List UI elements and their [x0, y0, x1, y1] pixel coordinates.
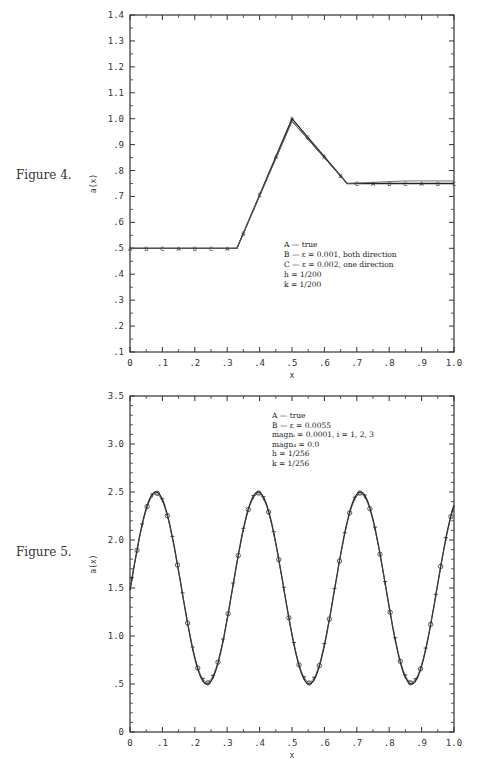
y-tick-label: 1.3	[108, 36, 124, 46]
legend-entry: magnᵢ = 0.0001, i = 1, 2, 3	[272, 430, 374, 439]
series-line	[130, 494, 454, 682]
x-axis-title: x	[290, 751, 295, 760]
x-tick-label: .6	[319, 358, 330, 368]
data-marker	[373, 527, 377, 531]
data-marker: C	[160, 245, 164, 252]
y-tick-label: .5	[113, 679, 124, 689]
y-tick-label: .3	[113, 295, 124, 305]
data-marker	[434, 594, 438, 598]
x-tick-label: .7	[351, 358, 362, 368]
data-marker	[393, 638, 397, 642]
data-marker: C	[403, 180, 407, 187]
data-marker: C	[306, 134, 310, 141]
data-marker	[241, 528, 245, 532]
y-tick-label: .1	[113, 347, 124, 357]
data-marker	[272, 532, 276, 536]
legend-entry: k = 1/256	[272, 459, 309, 468]
y-tick-label: 2.5	[108, 487, 124, 497]
data-marker	[191, 647, 195, 651]
data-marker: C	[257, 191, 261, 198]
x-tick-label: 0	[127, 358, 132, 368]
legend-entry: A — true	[283, 240, 318, 249]
x-tick-label: .3	[222, 738, 233, 748]
data-marker	[383, 582, 387, 586]
y-tick-label: 1.4	[108, 10, 124, 20]
y-tick-label: 2.0	[108, 535, 124, 545]
data-marker: B	[290, 115, 294, 122]
data-marker: C	[209, 245, 213, 252]
y-axis-title: a(x)	[89, 174, 98, 193]
data-marker	[332, 589, 336, 593]
y-tick-label: 0	[119, 727, 124, 737]
x-tick-label: .8	[384, 738, 395, 748]
x-tick-label: .9	[416, 358, 427, 368]
data-marker	[322, 644, 326, 648]
y-tick-label: 3.5	[108, 391, 124, 401]
data-marker	[282, 587, 286, 591]
x-tick-label: .2	[189, 738, 200, 748]
y-tick-label: .9	[113, 140, 124, 150]
data-marker: B	[193, 245, 197, 252]
y-tick-label: 1.2	[108, 62, 124, 72]
y-tick-label: 3.0	[108, 439, 124, 449]
x-tick-label: .4	[254, 738, 265, 748]
y-tick-label: 1.5	[108, 583, 124, 593]
chart-5: 0.1.2.3.4.5.6.7.8.91.00.51.01.52.02.53.0…	[89, 391, 462, 760]
y-tick-label: 1.0	[108, 114, 124, 124]
y-tick-label: .6	[113, 217, 124, 227]
y-tick-label: .2	[113, 321, 124, 331]
data-marker: B	[387, 180, 391, 187]
data-marker	[444, 538, 448, 542]
legend-entry: k = 1/200	[284, 280, 321, 289]
legend-entry: magn₄ = 0.0	[272, 440, 319, 449]
y-tick-label: .8	[113, 166, 124, 176]
x-tick-label: 0	[127, 738, 132, 748]
x-tick-label: .9	[416, 738, 427, 748]
legend-entry: h = 1/256	[272, 449, 310, 458]
x-tick-label: 1.0	[446, 358, 462, 368]
legend-entry: h = 1/200	[284, 270, 322, 279]
data-marker	[343, 533, 347, 537]
data-marker	[424, 648, 428, 652]
x-tick-label: .5	[287, 738, 298, 748]
legend-entry: A — true	[271, 411, 306, 420]
y-tick-label: 1.1	[108, 88, 124, 98]
data-marker	[292, 642, 296, 646]
x-tick-label: .7	[351, 738, 362, 748]
y-tick-label: .4	[113, 269, 124, 279]
x-tick-label: 1.0	[446, 738, 462, 748]
charts-canvas: 0.1.2.3.4.5.6.7.8.91.0.1.2.3.4.5.6.7.8.9…	[0, 0, 480, 762]
data-marker: C	[452, 180, 456, 187]
x-tick-label: .4	[254, 358, 265, 368]
data-marker: B	[144, 245, 148, 252]
x-tick-label: .6	[319, 738, 330, 748]
x-axis-title: x	[290, 371, 295, 380]
legend-entry: C — ε = 0.002, one direction	[284, 260, 394, 269]
data-marker: B	[339, 172, 343, 179]
y-axis-title: a(x)	[89, 554, 98, 573]
x-tick-label: .1	[157, 358, 168, 368]
data-marker: B	[241, 230, 245, 237]
x-tick-label: .8	[384, 358, 395, 368]
legend-entry: B — ε = 0.001, both direction	[284, 250, 397, 259]
x-tick-label: .5	[287, 358, 298, 368]
data-marker: B	[436, 180, 440, 187]
series-line	[130, 492, 454, 684]
data-marker: C	[355, 180, 359, 187]
x-tick-label: .2	[189, 358, 200, 368]
legend-entry: B — ε = 0.0055	[272, 421, 331, 430]
data-marker	[231, 583, 235, 587]
chart-4: 0.1.2.3.4.5.6.7.8.91.0.1.2.3.4.5.6.7.8.9…	[89, 10, 462, 380]
y-tick-label: 1.0	[108, 631, 124, 641]
data-marker	[140, 524, 144, 528]
x-tick-label: .1	[157, 738, 168, 748]
data-marker	[170, 536, 174, 540]
data-marker	[181, 593, 185, 597]
data-marker	[221, 639, 225, 643]
x-tick-label: .3	[222, 358, 233, 368]
y-tick-label: .7	[113, 191, 124, 201]
y-tick-label: .5	[113, 243, 124, 253]
